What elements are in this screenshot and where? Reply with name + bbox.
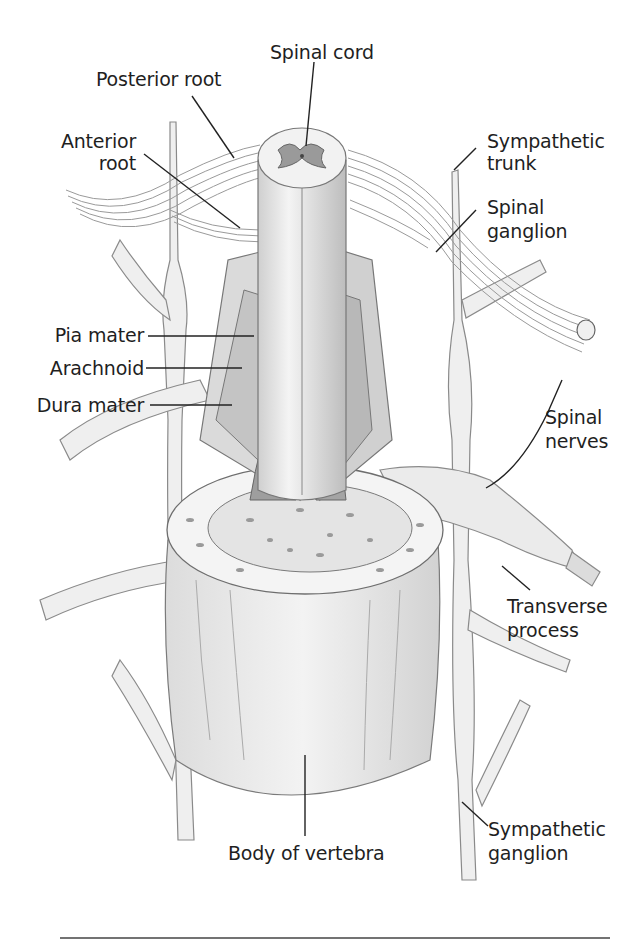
label-sympathetic-trunk-2: trunk: [487, 152, 536, 174]
label-spinal-ganglion-1: Spinal: [487, 196, 544, 218]
label-transverse-process-2: process: [507, 619, 579, 641]
label-body-of-vertebra: Body of vertebra: [228, 842, 385, 864]
vertebral-body: [165, 466, 443, 795]
label-spinal-nerves-1: Spinal: [545, 406, 602, 428]
label-sympathetic-trunk-1: Sympathetic: [487, 130, 605, 152]
spinal-cord: [258, 128, 346, 500]
label-anterior-root-1: Anterior: [56, 130, 136, 152]
label-sympathetic-ganglion-1: Sympathetic: [488, 818, 606, 840]
label-posterior-root: Posterior root: [96, 68, 221, 90]
label-dura-mater: Dura mater: [10, 394, 144, 416]
label-spinal-nerves-2: nerves: [545, 430, 608, 452]
label-anterior-root-2: root: [56, 152, 136, 174]
nerve-cut-end: [577, 320, 595, 340]
label-arachnoid: Arachnoid: [10, 357, 144, 379]
label-transverse-process-1: Transverse: [507, 595, 608, 617]
label-spinal-cord: Spinal cord: [270, 41, 374, 63]
anatomy-figure: Spinal cord Posterior root Anterior root…: [0, 0, 640, 941]
label-pia-mater: Pia mater: [20, 324, 144, 346]
label-sympathetic-ganglion-2: ganglion: [488, 842, 568, 864]
label-spinal-ganglion-2: ganglion: [487, 220, 567, 242]
